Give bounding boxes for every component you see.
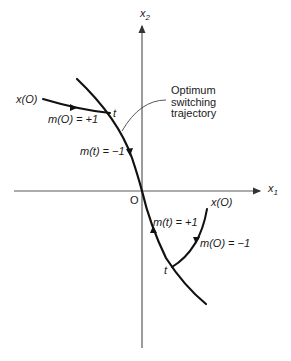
switching-curve-lower	[142, 191, 206, 304]
trajectory-upper-left	[43, 99, 110, 113]
switching-curve-upper	[77, 79, 142, 191]
lower-control-label: m(O) = −1	[200, 237, 250, 249]
arrow-upper-left-trajectory	[70, 104, 77, 111]
annotation-text: Optimum switching trajectory	[171, 84, 219, 119]
arrow-lower-right-trajectory	[193, 237, 200, 244]
x1-axis-label: x1	[267, 182, 278, 197]
upper-switch-label: t	[113, 107, 117, 119]
lower-curve-control-label: m(t) = +1	[153, 216, 198, 228]
lower-start-label: x(O)	[210, 196, 233, 208]
phase-plane-diagram: x1 x2 O Optimum switching trajectory x(O…	[0, 0, 291, 361]
x2-axis-label: x2	[139, 7, 151, 22]
origin-label: O	[130, 194, 139, 206]
upper-control-label: m(O) = +1	[48, 113, 98, 125]
annotation-leader-line	[122, 100, 166, 131]
upper-curve-control-label: m(t) = −1	[80, 145, 125, 157]
lower-switch-label: t	[164, 264, 168, 276]
upper-start-label: x(O)	[15, 93, 38, 105]
